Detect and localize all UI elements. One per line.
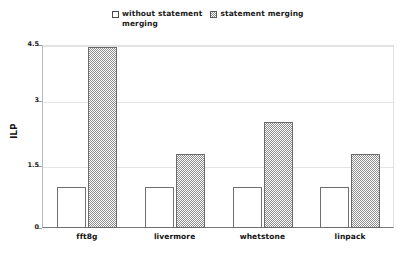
bar-linpack-without-statement-merging — [320, 187, 349, 228]
legend-label-statement-merging: statement merging — [220, 9, 303, 19]
bar-linpack-statement-merging — [351, 154, 380, 228]
bar-group-fft8g — [43, 45, 131, 228]
ilp-bar-chart: without statement merging statement merg… — [0, 0, 410, 256]
bar-livermore-statement-merging — [176, 154, 205, 228]
x-axis-tick-labels: fft8g livermore whetstone linpack — [43, 232, 394, 248]
x-tick-label-whetstone: whetstone — [219, 232, 307, 241]
x-tick-label-livermore: livermore — [131, 232, 219, 241]
y-tick-label-3: 3 — [34, 97, 39, 104]
legend-label-without-statement-merging: without statement merging — [122, 9, 202, 28]
bar-livermore-without-statement-merging — [145, 187, 174, 228]
bar-group-livermore — [131, 45, 219, 228]
x-tick-label-fft8g: fft8g — [43, 232, 131, 241]
legend-entry-statement-merging: statement merging — [210, 9, 303, 19]
chart-legend: without statement merging statement merg… — [112, 9, 304, 28]
y-axis-tick-labels: 4.5 3 1.5 0 — [20, 0, 39, 256]
y-tick-label-1.5: 1.5 — [27, 162, 39, 169]
empty-square-icon — [112, 11, 119, 18]
bar-group-whetstone — [219, 45, 307, 228]
y-tick-label-4.5: 4.5 — [27, 41, 39, 48]
legend-entry-without-statement-merging: without statement merging — [112, 9, 202, 28]
bar-whetstone-statement-merging — [264, 122, 293, 228]
bar-group-linpack — [306, 45, 394, 228]
bars-layer — [43, 45, 394, 228]
bar-fft8g-statement-merging — [88, 47, 117, 228]
bar-whetstone-without-statement-merging — [233, 187, 262, 228]
x-tick-label-linpack: linpack — [306, 232, 394, 241]
hatched-square-icon — [210, 11, 217, 18]
y-axis-title: ILP — [9, 111, 19, 151]
bar-fft8g-without-statement-merging — [57, 187, 86, 228]
y-tick-label-0: 0 — [34, 224, 39, 231]
